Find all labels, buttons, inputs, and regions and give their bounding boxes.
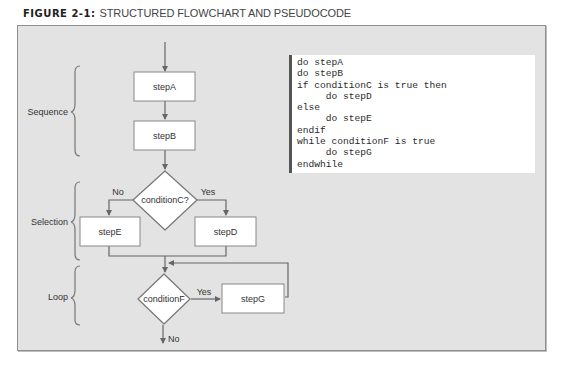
pseudocode-line: do stepG [297, 147, 535, 158]
stepG-box: stepG [222, 284, 284, 313]
stepD-box: stepD [195, 217, 256, 246]
stepG-label: stepG [241, 294, 265, 304]
sequence-brace [71, 66, 80, 156]
stepA-box: stepA [134, 72, 195, 101]
pseudocode-box: do stepA do stepB if conditionC is true … [289, 55, 535, 173]
pseudocode-line: do stepB [297, 68, 535, 79]
stepD-label: stepD [214, 227, 238, 237]
pseudocode-line: do stepD [297, 91, 535, 102]
loop-brace [71, 266, 80, 325]
stepE-label: stepE [98, 227, 121, 237]
stepA-label: stepA [153, 82, 176, 92]
conditionC-diamond: conditionC? [133, 171, 197, 230]
conditionF-yes-label: Yes [197, 287, 212, 297]
pseudocode-line: if conditionC is true then [297, 80, 535, 91]
conditionF-label: conditionF [143, 294, 185, 304]
pseudocode-line: endwhile [297, 159, 535, 170]
conditionC-label: conditionC? [141, 195, 189, 205]
selection-brace [71, 182, 80, 260]
conditionF-no-label: No [168, 334, 180, 344]
sequence-label: Sequence [27, 107, 68, 117]
stepE-box: stepE [80, 217, 140, 246]
conditionC-yes-label: Yes [201, 187, 216, 197]
pseudocode-line: while conditionF is true [297, 136, 535, 147]
pseudocode-line: do stepE [297, 113, 535, 124]
selection-merge-line [109, 246, 226, 256]
pseudocode-line: endif [297, 125, 535, 136]
stepB-box: stepB [134, 121, 195, 150]
stepB-label: stepB [153, 131, 176, 141]
pseudocode-line: else [297, 102, 535, 113]
conditionF-diamond: conditionF [138, 274, 190, 324]
arrow-c-no [109, 200, 133, 215]
arrow-c-yes [197, 200, 226, 215]
pseudocode-line: do stepA [297, 57, 535, 68]
conditionC-no-label: No [112, 187, 124, 197]
loop-label: Loop [48, 292, 68, 302]
selection-label: Selection [31, 217, 68, 227]
